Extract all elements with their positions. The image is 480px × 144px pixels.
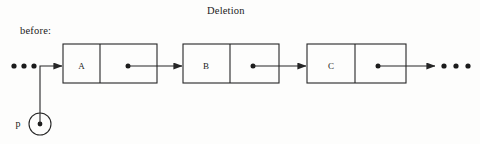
pointer-variable-p: p bbox=[16, 66, 63, 135]
pointer-p-label: p bbox=[16, 118, 21, 129]
node-a-box bbox=[63, 44, 157, 83]
node-b-box bbox=[183, 44, 279, 83]
pointer-p-arrow bbox=[40, 66, 62, 124]
list-node-c: C bbox=[307, 44, 406, 83]
linked-list-diagram: A B C bbox=[0, 0, 480, 144]
node-a-label: A bbox=[78, 61, 85, 71]
figure-canvas: Deletion before: A B bbox=[0, 0, 480, 144]
node-c-label: C bbox=[328, 61, 334, 71]
ellipsis-right bbox=[441, 63, 470, 68]
node-c-box bbox=[307, 44, 406, 83]
list-node-b: B bbox=[183, 44, 279, 83]
node-b-label: B bbox=[203, 61, 209, 71]
ellipsis-left bbox=[11, 63, 36, 68]
list-node-a: A bbox=[63, 44, 157, 83]
